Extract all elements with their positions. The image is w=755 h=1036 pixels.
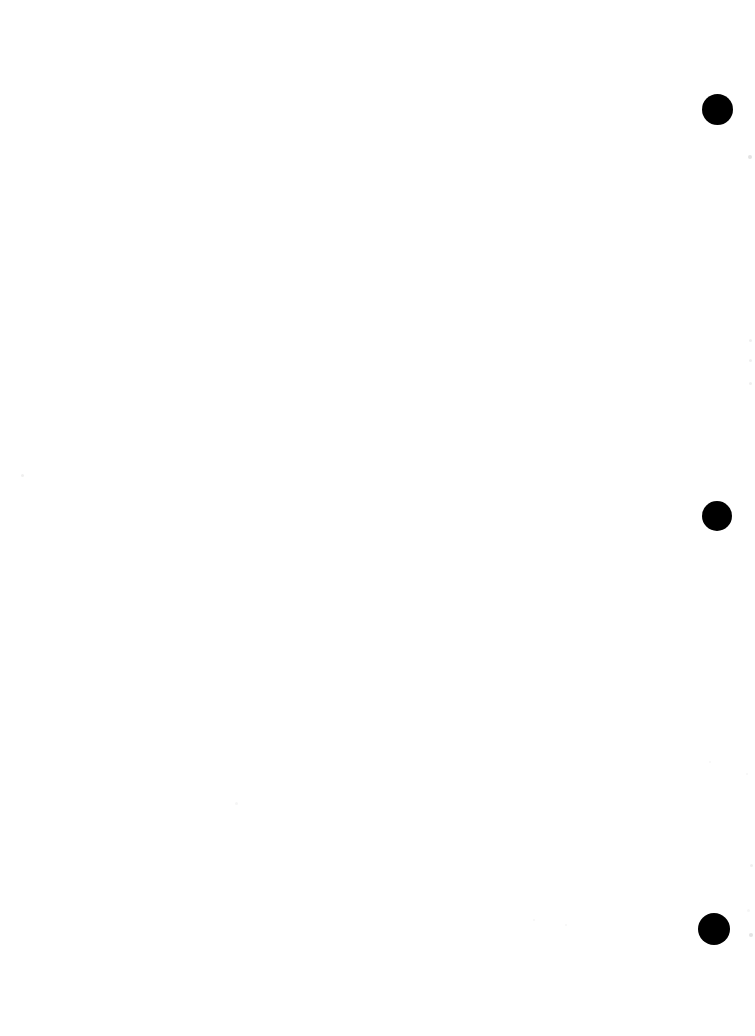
scan-speck	[750, 864, 753, 867]
margin-dot-bottom-icon	[698, 913, 730, 945]
scan-speck	[565, 924, 568, 927]
margin-dot-middle-icon	[702, 501, 732, 531]
scan-speck	[749, 933, 753, 937]
scan-speck	[235, 802, 238, 805]
scan-speck	[749, 382, 752, 385]
scan-speck	[749, 339, 752, 342]
scan-speck	[533, 919, 535, 921]
scan-speck	[21, 474, 24, 477]
scanned-page-canvas: Scanned Document Page	[0, 0, 755, 1036]
page-title: Scanned Document Page	[0, 0, 1, 1]
scan-speck	[747, 909, 750, 912]
scan-speck	[748, 155, 752, 159]
scan-speck	[746, 773, 749, 776]
scan-speck	[749, 359, 752, 362]
scan-speck	[709, 761, 712, 764]
margin-dot-top-icon	[702, 94, 733, 125]
